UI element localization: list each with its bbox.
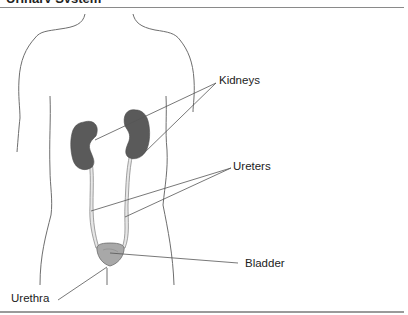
label-bladder: Bladder: [245, 257, 285, 269]
left-kidney: [71, 121, 98, 169]
label-ureters: Ureters: [233, 160, 271, 172]
label-urethra: Urethra: [11, 292, 49, 304]
label-kidneys: Kidneys: [219, 74, 260, 86]
kidneys: [71, 110, 150, 170]
bottom-divider: [0, 311, 404, 313]
leader-lines: [58, 83, 238, 300]
urinary-system-diagram: [0, 0, 408, 315]
bladder: [97, 243, 124, 266]
